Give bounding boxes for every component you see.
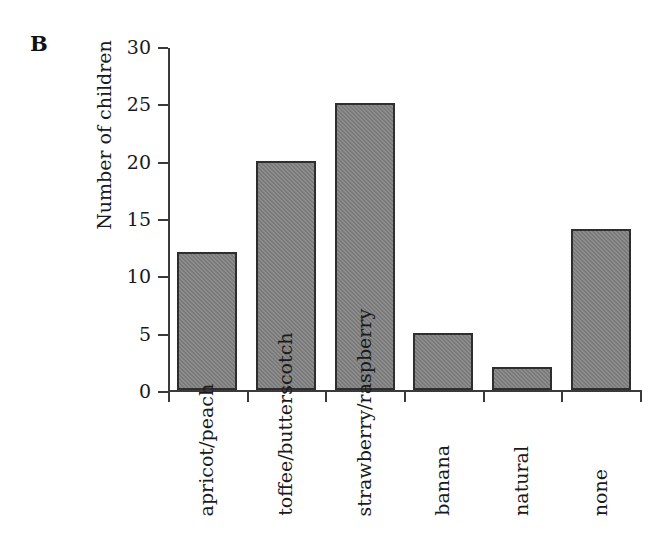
y-axis-title: Number of children [93,25,115,245]
category-label-line: toffee/ [274,455,296,516]
y-axis-line [168,48,170,392]
y-axis-tick: 30 [158,47,168,49]
category-label-line: raspberry [353,309,375,404]
x-axis-category-labels: apricot/peachtoffee/butterscotchstrawber… [168,356,640,516]
x-axis-category: natural [483,356,562,516]
category-label-line: natural [510,446,532,516]
y-axis-tick: 5 [158,334,168,336]
y-axis-tick-label: 20 [127,150,151,172]
y-axis-tick-label: 0 [139,380,151,402]
x-axis-category: apricot/peach [168,356,247,516]
x-axis-category-label: none [591,469,610,516]
y-axis-tick-label: 15 [127,208,151,230]
category-label-line: strawberry/ [353,403,375,516]
x-axis-category-label: strawberry/raspberry [355,309,374,516]
x-axis-category-label: banana [434,445,453,516]
y-axis-tick: 25 [158,104,168,106]
y-axis-tick: 15 [158,219,168,221]
x-axis-category: none [561,356,640,516]
x-axis-category-label: natural [512,446,531,516]
y-axis-tick: 0 [158,391,168,393]
y-axis-tick-label: 25 [127,93,151,115]
y-axis-tick: 20 [158,162,168,164]
category-label-line: none [589,469,611,516]
x-axis-category-label: apricot/peach [198,384,217,516]
panel-label: B [30,33,48,54]
category-label-line: banana [432,445,454,516]
plot-area: 051015202530 [168,48,640,392]
x-axis-category: banana [404,356,483,516]
category-label-line: apricot/ [196,441,218,516]
category-label-line: peach [196,384,218,442]
x-axis-tick [640,392,642,402]
figure-panel-b: B Number of children 051015202530 aprico… [0,0,662,558]
x-axis-category: strawberry/raspberry [325,356,404,516]
x-axis-category-label: toffee/butterscotch [276,332,295,516]
y-axis-tick-label: 5 [139,322,151,344]
category-label-line: butterscotch [274,332,296,454]
y-axis-tick: 10 [158,276,168,278]
y-axis-tick-label: 30 [127,36,151,58]
y-axis-tick-label: 10 [127,265,151,287]
x-axis-category: toffee/butterscotch [247,356,326,516]
